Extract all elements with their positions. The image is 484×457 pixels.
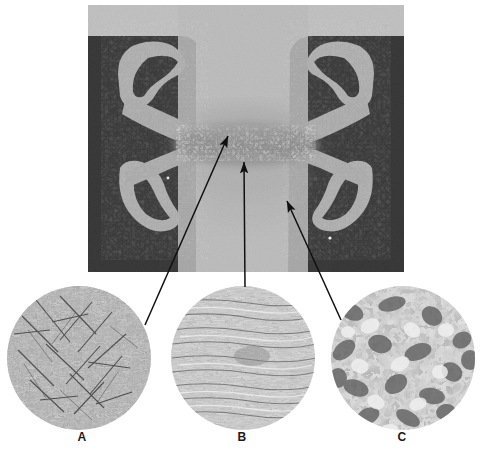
leader-b (244, 162, 245, 287)
micrograph-label-b: B (230, 430, 254, 444)
figure-canvas (0, 0, 484, 457)
metallurgical-figure: A B C (0, 0, 484, 457)
micrograph-label-c: C (390, 430, 414, 444)
micrograph-label-a: A (70, 430, 94, 444)
weld-cross-section-macrograph (88, 5, 404, 272)
speck-right (328, 236, 331, 239)
speck-left (167, 177, 170, 180)
macrograph-film-grain (88, 5, 404, 272)
